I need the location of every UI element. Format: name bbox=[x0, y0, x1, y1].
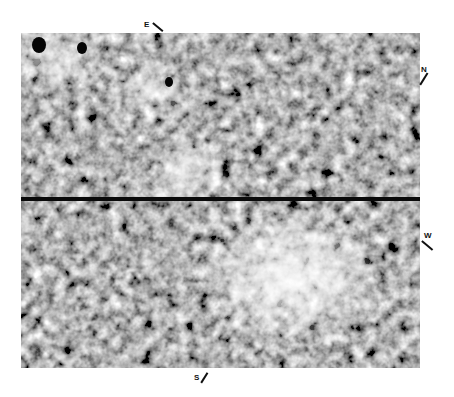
compass-label-west: W bbox=[424, 231, 432, 240]
east-marker-icon bbox=[152, 22, 163, 32]
south-marker-icon bbox=[200, 372, 208, 383]
north-marker-icon bbox=[419, 73, 428, 86]
horizontal-reference-line bbox=[21, 197, 420, 201]
west-marker-icon bbox=[421, 240, 433, 250]
compass-label-east: E bbox=[144, 20, 149, 29]
compass-label-south: S bbox=[194, 373, 199, 382]
